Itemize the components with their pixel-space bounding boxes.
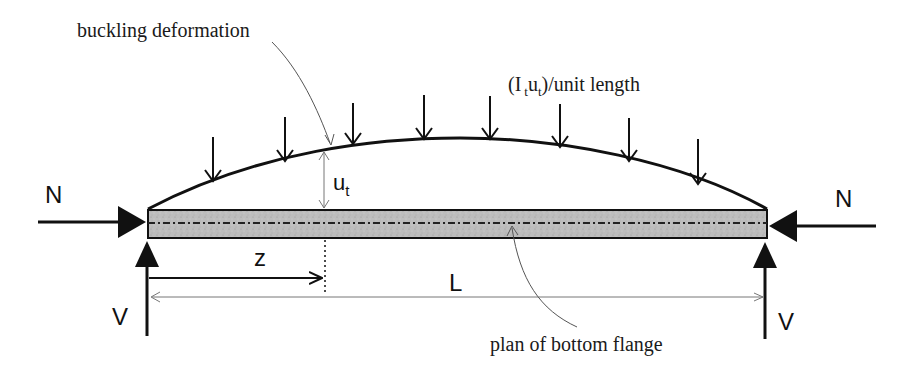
down-arrow-icon: [552, 104, 568, 147]
axial-force-right-label: N: [835, 185, 852, 212]
reaction-left-arrow: [135, 241, 159, 336]
plan-of-bottom-flange-leader: [512, 228, 577, 327]
bottom-flange-plan: [148, 210, 767, 238]
reaction-left-label: V: [112, 303, 128, 330]
span-label: L: [449, 269, 462, 296]
down-arrow-icon: [621, 118, 637, 161]
buckling-curve: [148, 138, 767, 209]
down-arrow-icon: [416, 95, 432, 139]
ut-dimension: [319, 152, 329, 208]
down-arrow-icon: [482, 96, 498, 139]
reaction-right-arrow: [753, 242, 777, 339]
axial-force-right-arrow: [769, 210, 876, 242]
diagram-canvas: ut buckling deformation (Itut)/unit leng…: [0, 0, 913, 376]
reaction-right-label: V: [778, 308, 794, 335]
down-arrow-icon: [277, 117, 293, 161]
down-arrow-icon: [690, 139, 706, 184]
ut-label: ut: [333, 170, 350, 199]
buckling-deformation-leader: [272, 42, 330, 143]
plan-of-bottom-flange-label: plan of bottom flange: [490, 333, 663, 356]
down-arrow-icon: [345, 103, 361, 144]
axial-force-left-label: N: [45, 181, 62, 208]
z-label: z: [254, 244, 266, 271]
restraint-load-label: (Itut)/unit length: [508, 73, 640, 99]
axial-force-left-arrow: [38, 206, 146, 238]
buckling-deformation-label: buckling deformation: [77, 19, 250, 42]
down-arrow-icon: [205, 137, 221, 181]
z-dimension: [149, 240, 325, 292]
